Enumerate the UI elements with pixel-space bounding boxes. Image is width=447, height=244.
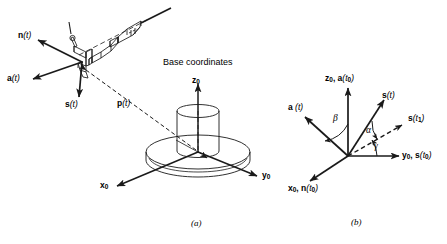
x0-axis-label: x0: [100, 181, 108, 191]
n-vector-label: n(t): [18, 31, 31, 40]
robot-gripper: [69, 8, 171, 78]
z0-axis-label: z0: [192, 76, 200, 86]
alpha-angle-label: α: [366, 125, 371, 135]
s-vector-label: s(t): [65, 100, 78, 109]
a-vector-label: a(t): [7, 74, 20, 83]
st-axis-label: s(t): [382, 91, 395, 100]
panel-a-group: [33, 8, 257, 186]
z0-at0-axis-label: z0, a(t0): [325, 74, 354, 84]
a-vector-arrow: [33, 62, 82, 79]
hand-frame-vectors: [33, 40, 82, 97]
panel-b-caption: (b): [351, 217, 362, 227]
panel-b-axes: [305, 88, 402, 181]
p-vector-label: p(t): [117, 99, 130, 108]
alpha-arc: [372, 121, 377, 139]
figure-canvas: [0, 0, 447, 244]
panel-b-group: [305, 88, 402, 181]
st1-axis-label: s(t1): [408, 114, 424, 124]
base-coordinates-heading: Base coordinates: [163, 57, 233, 67]
beta-angle-label: β: [333, 113, 338, 123]
p-vector-arrow: [86, 70, 207, 158]
x0-nt0-axis-label: x0, n(t0): [288, 184, 318, 194]
at-axis-arrow: [305, 117, 348, 156]
y0-st0-axis-label: y0, s(t0): [402, 151, 432, 161]
at-axis-label: a (t): [288, 103, 303, 112]
panel-a-caption: (a): [191, 218, 202, 228]
p-vector-group: [86, 70, 207, 158]
y0-axis-label: y0: [262, 171, 270, 181]
x0-nt0-axis-arrow: [310, 156, 348, 181]
gamma-angle-label: γ: [374, 141, 378, 151]
